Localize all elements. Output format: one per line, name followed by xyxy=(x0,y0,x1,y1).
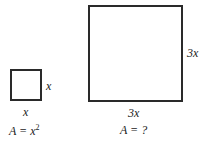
small-square-area-formula: A = x2 xyxy=(9,125,40,137)
small-square-bottom-label: x xyxy=(23,106,28,118)
large-square-area-label: A = ? xyxy=(120,124,147,136)
large-square-right-label: 3x xyxy=(187,47,198,59)
small-square xyxy=(10,69,42,101)
area-prefix: A = xyxy=(9,124,30,138)
area-exponent: 2 xyxy=(36,123,40,132)
large-square-bottom-label: 3x xyxy=(128,107,139,119)
large-square xyxy=(88,5,183,102)
small-square-right-label: x xyxy=(46,80,51,92)
